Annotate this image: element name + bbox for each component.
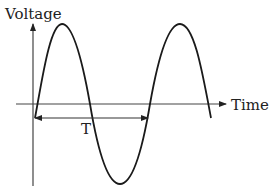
y-axis-label: Voltage <box>4 5 62 23</box>
x-axis-label: Time <box>231 96 269 114</box>
sine-wave-diagram: Voltage Time T <box>0 0 269 196</box>
period-label: T <box>81 120 91 138</box>
